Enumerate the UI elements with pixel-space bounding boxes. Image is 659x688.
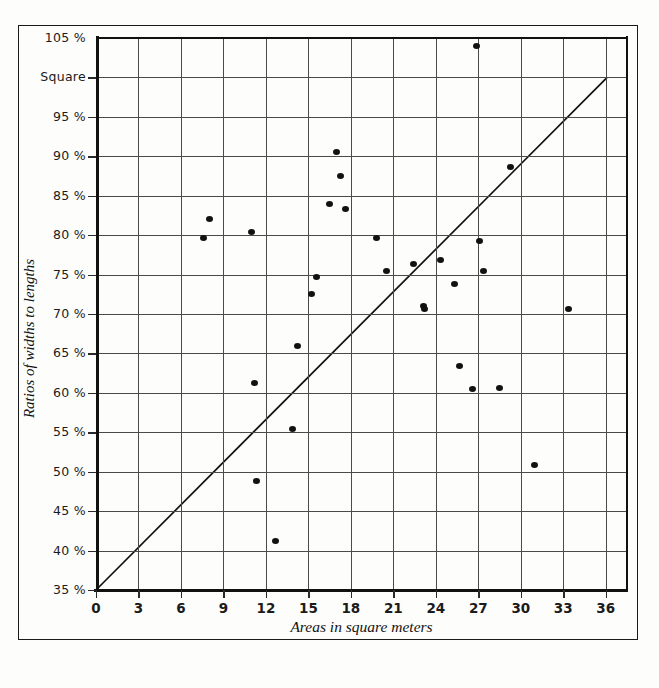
y-axis-tick-label: 65 % [0,345,86,360]
gridline-horizontal [96,393,627,394]
data-point [251,380,258,386]
y-axis-tick-label: 90 % [0,148,86,163]
y-axis-tick [88,432,96,433]
y-axis-tick [88,117,96,118]
data-point [373,235,380,241]
gridline-horizontal [96,511,627,512]
data-point [253,478,260,484]
x-axis-tick [436,590,437,598]
x-axis-title: Areas in square meters [96,618,627,636]
y-axis-tick [88,590,96,591]
y-axis-tick-label: 35 % [0,582,86,597]
y-axis-tick [88,551,96,552]
gridline-horizontal [96,235,627,236]
gridline-horizontal [96,314,627,315]
gridline-horizontal [96,275,627,276]
gridline-horizontal [96,156,627,157]
y-axis-tick [88,393,96,394]
x-axis-tick [351,590,352,598]
x-axis-tick-label: 21 [373,600,413,616]
gridline-horizontal [96,353,627,354]
data-point [469,386,476,392]
y-axis-tick [88,511,96,512]
x-axis-tick [181,590,182,598]
x-axis-tick-label: 3 [118,600,158,616]
y-axis-tick-label: 45 % [0,503,86,518]
y-axis-tick-label: 40 % [0,543,86,558]
y-axis-tick-label: 85 % [0,188,86,203]
data-point [294,343,301,349]
data-point [451,281,458,287]
x-axis-tick [521,590,522,598]
gridline-horizontal [96,196,627,197]
gridline-horizontal [96,551,627,552]
plot-area [96,38,627,590]
x-axis-tick [563,590,564,598]
y-axis-tick [88,472,96,473]
x-axis-tick-label: 18 [331,600,371,616]
x-axis-tick [96,590,97,598]
x-axis-tick-label: 9 [203,600,243,616]
x-axis-tick [393,590,394,598]
y-axis-tick [88,77,96,78]
y-axis-tick-label: 70 % [0,306,86,321]
x-axis-tick-label: 24 [416,600,456,616]
x-axis-tick-label: 12 [246,600,286,616]
x-axis-tick [138,590,139,598]
data-point [342,206,349,212]
y-axis-tick-label: 60 % [0,385,86,400]
figure-root: Ratios of widths to lengths Areas in squ… [0,0,659,688]
y-axis-tick-label: Square [0,69,86,84]
axis-left-spine [96,36,99,592]
y-axis-tick-label: 75 % [0,267,86,282]
y-axis-tick-label: 95 % [0,109,86,124]
x-axis-tick [223,590,224,598]
y-axis-tick [88,353,96,354]
x-axis-tick [308,590,309,598]
gridline-horizontal [96,117,627,118]
y-axis-tick [88,314,96,315]
x-axis-tick-label: 6 [161,600,201,616]
y-axis-tick [88,196,96,197]
y-axis-tick [88,156,96,157]
gridline-horizontal [96,432,627,433]
gridline-horizontal [96,472,627,473]
y-axis-tick [88,275,96,276]
y-axis-tick-label: 50 % [0,464,86,479]
x-axis-tick-label: 0 [76,600,116,616]
y-axis-title: Ratios of widths to lengths [21,224,38,454]
x-axis-tick [478,590,479,598]
x-axis-tick-label: 30 [501,600,541,616]
x-axis-tick-label: 27 [458,600,498,616]
axis-right-spine [626,36,628,592]
y-axis-tick-label: 105 % [0,30,86,45]
gridline-horizontal [96,77,627,78]
x-axis-tick-label: 33 [543,600,583,616]
axis-bottom-spine [94,589,628,592]
x-axis-tick [606,590,607,598]
x-axis-tick-label: 36 [586,600,626,616]
x-axis-tick-label: 15 [288,600,328,616]
y-axis-tick-label: 80 % [0,227,86,242]
y-axis-tick [88,235,96,236]
data-point [383,268,390,274]
y-axis-tick-label: 55 % [0,424,86,439]
axis-top-spine [96,37,628,39]
x-axis-tick [266,590,267,598]
